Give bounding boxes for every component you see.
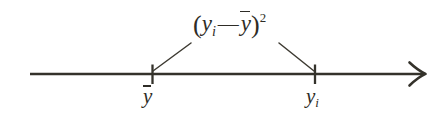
minus-operator: — [216,12,241,36]
tick-label-observation: yi [306,86,319,109]
close-paren: ) [251,10,260,39]
squared-deviation-expression: (yi—y)2 [193,12,266,38]
expression-term2-variable-overbar: y [241,12,251,35]
observation-variable: y [306,84,315,108]
mean-variable-overbar: y [143,86,152,107]
leader-line-right [279,43,314,71]
exponent-two: 2 [260,11,266,25]
expression-term1-variable: y [202,11,212,36]
number-line-figure: (yi—y)2 y yi [0,0,443,118]
observation-subscript: i [315,95,319,110]
open-paren: ( [193,10,202,39]
tick-label-mean: y [143,86,152,107]
leader-line-left [153,43,191,71]
